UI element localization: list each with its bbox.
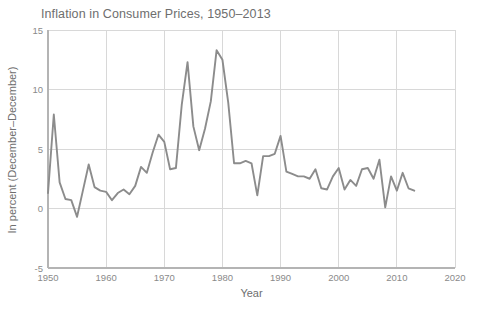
x-tick-label: 1970 bbox=[154, 272, 175, 283]
data-series-layer bbox=[48, 50, 414, 217]
x-axis-title: Year bbox=[48, 287, 455, 299]
y-tick-labels: -5051015 bbox=[32, 25, 43, 274]
x-tick-label: 2020 bbox=[444, 272, 465, 283]
line-chart-plot: -5051015 1950196019701980199020002010202… bbox=[0, 0, 478, 314]
y-tick-label: 10 bbox=[32, 84, 43, 95]
y-axis-title: In percent (December–December) bbox=[6, 30, 22, 270]
chart-container: Inflation in Consumer Prices, 1950–2013 … bbox=[0, 0, 478, 314]
y-tick-label: 0 bbox=[38, 203, 43, 214]
x-tick-labels: 19501960197019801990200020102020 bbox=[37, 272, 465, 283]
y-tick-label: 15 bbox=[32, 25, 43, 36]
x-tick-label: 1960 bbox=[96, 272, 117, 283]
x-tick-label: 1990 bbox=[270, 272, 291, 283]
y-tick-label: 5 bbox=[38, 144, 43, 155]
data-line-inflation bbox=[48, 50, 414, 217]
grid-lines bbox=[48, 30, 455, 268]
x-tick-label: 1950 bbox=[37, 272, 58, 283]
x-tick-label: 2010 bbox=[386, 272, 407, 283]
x-tick-label: 2000 bbox=[328, 272, 349, 283]
x-tick-label: 1980 bbox=[212, 272, 233, 283]
